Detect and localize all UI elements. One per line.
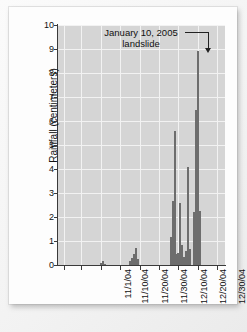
y-tick-mark — [54, 217, 58, 218]
x-tick-mark — [159, 266, 160, 270]
y-tick-label: 2 — [40, 213, 54, 222]
x-tick-label: 11/30/04 — [180, 269, 189, 325]
bar — [199, 211, 201, 265]
gridline-horizontal — [58, 97, 225, 98]
y-tick-mark — [54, 241, 58, 242]
y-tick-mark — [54, 73, 58, 74]
bar — [174, 131, 176, 265]
annotation-leader-horizontal — [185, 32, 209, 33]
gridline-vertical — [120, 25, 121, 265]
gridline-horizontal — [58, 49, 225, 50]
bar — [189, 249, 191, 265]
gridline-horizontal — [58, 73, 225, 74]
x-tick-mark — [101, 266, 102, 270]
y-tick-mark — [54, 265, 58, 266]
gridline-vertical — [217, 25, 218, 265]
x-tick-mark — [140, 266, 141, 270]
x-tick-label: 11/10/04 — [141, 269, 150, 325]
gridline-horizontal — [58, 25, 225, 26]
y-tick-label: 1 — [40, 237, 54, 246]
y-tick-mark — [54, 25, 58, 26]
annotation-line-2: landslide — [122, 38, 160, 49]
gridline-vertical — [81, 25, 82, 265]
x-tick-label: 12/20/04 — [219, 269, 228, 325]
x-tick-mark — [64, 266, 65, 270]
x-tick-label: 12/30/04 — [238, 269, 247, 325]
x-axis-tick-labels: 11/1/0411/10/0411/20/0411/30/0412/10/041… — [9, 269, 247, 329]
x-tick-mark — [178, 266, 179, 270]
gridline-horizontal — [58, 193, 225, 194]
y-axis-title-wrapper: Rainfall (centimeters) — [23, 7, 37, 283]
figure-card: 012345678910 Rainfall (centimeters) 11/1… — [9, 7, 237, 304]
y-tick-mark — [54, 145, 58, 146]
gridline-horizontal — [58, 145, 225, 146]
x-tick-label: 11/20/04 — [161, 269, 170, 325]
x-tick-label: 11/1/04 — [124, 269, 133, 325]
annotation-line-1: January 10, 2005 — [104, 27, 177, 38]
gridline-vertical — [101, 25, 102, 265]
gridline-horizontal — [58, 169, 225, 170]
x-tick-mark — [81, 266, 82, 270]
y-tick-mark — [54, 97, 58, 98]
x-tick-mark — [198, 266, 199, 270]
x-tick-mark — [120, 266, 121, 270]
x-axis-line — [57, 265, 226, 266]
y-tick-mark — [54, 193, 58, 194]
x-tick-label: 12/10/04 — [200, 269, 209, 325]
y-axis-title: Rainfall (centimeters) — [48, 26, 59, 206]
page-background: 012345678910 Rainfall (centimeters) 11/1… — [0, 0, 247, 332]
plot-area — [58, 25, 225, 265]
gridline-vertical — [159, 25, 160, 265]
gridline-vertical — [140, 25, 141, 265]
gridline-horizontal — [58, 121, 225, 122]
gridline-vertical — [64, 25, 65, 265]
annotation-arrowhead-icon — [205, 48, 211, 53]
y-tick-mark — [54, 49, 58, 50]
y-tick-mark — [54, 121, 58, 122]
x-tick-mark — [217, 266, 218, 270]
landslide-annotation: January 10, 2005 landslide — [93, 27, 189, 49]
annotation-leader-vertical — [208, 32, 209, 49]
y-tick-mark — [54, 169, 58, 170]
